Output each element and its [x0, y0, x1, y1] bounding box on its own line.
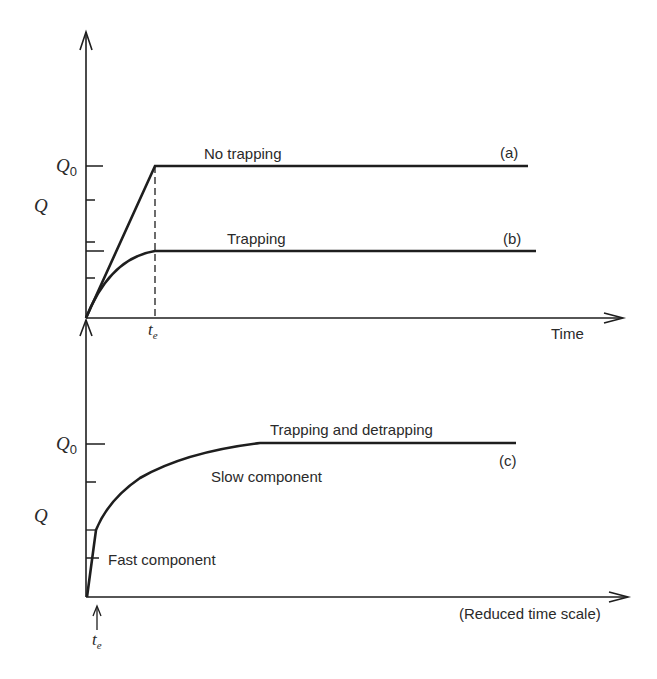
bottom-te-label: te — [92, 630, 102, 651]
top-y-axis-label: Q — [34, 195, 48, 216]
top-x-axis-label: Time — [551, 325, 584, 342]
curve-b-tag: (b) — [503, 230, 521, 247]
curve-c-tag: (c) — [499, 452, 517, 469]
curve-b-trapping — [86, 251, 536, 318]
top-q0-label: Q0 — [56, 155, 77, 179]
curve-a-label: No trapping — [204, 145, 282, 162]
curve-c-label: Trapping and detrapping — [270, 421, 433, 438]
curve-a-no-trapping — [86, 166, 528, 318]
bottom-x-axis-label: (Reduced time scale) — [459, 605, 601, 622]
bottom-chart: Q0 Q Trapping and detrapping (c) Slow co… — [34, 320, 628, 651]
bottom-q0-label: Q0 — [56, 433, 77, 457]
curve-b-label: Trapping — [227, 230, 286, 247]
bottom-y-axis-label: Q — [34, 505, 48, 526]
curve-c-trapping-detrapping — [87, 443, 516, 597]
fast-component-label: Fast component — [108, 551, 216, 568]
top-chart: Q0 Q No trapping (a) Trapping (b) Time t… — [34, 32, 623, 342]
curve-a-tag: (a) — [500, 144, 518, 161]
slow-component-label: Slow component — [211, 468, 323, 485]
trapping-diagram: Q0 Q No trapping (a) Trapping (b) Time t… — [0, 0, 657, 679]
top-te-label: te — [148, 320, 158, 341]
